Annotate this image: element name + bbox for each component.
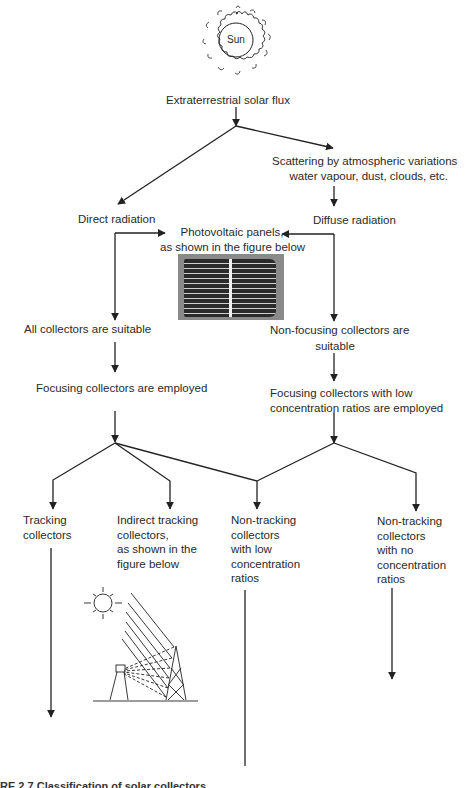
node-pv-line2: as shown in the figure below <box>160 240 304 254</box>
node-nontracking-low-ratio: Non-tracking collectors with low concent… <box>231 513 300 586</box>
node-extraterrestrial-flux: Extraterrestrial solar flux <box>166 93 290 107</box>
node-all-collectors-suitable: All collectors are suitable <box>24 322 151 336</box>
node-indirect-tracking-collectors: Indirect tracking collectors, as shown i… <box>117 513 198 571</box>
node-nontracking-no-ratio: Non-tracking collectors with no concentr… <box>377 514 446 587</box>
node-nonfocusing-line1: Non-focusing collectors are <box>270 323 409 337</box>
node-tracking-collectors: Tracking collectors <box>23 513 72 542</box>
node-focusing-low-line1: Focusing collectors with low <box>270 386 413 400</box>
node-direct-radiation: Direct radiation <box>78 212 155 226</box>
node-pv-line1: Photovoltaic panels, <box>160 225 304 239</box>
node-focusing-employed: Focusing collectors are employed <box>36 381 207 395</box>
figure-caption: RE 2.7 Classification of solar collector… <box>0 780 206 788</box>
node-scattering-line1: Scattering by atmospheric variations <box>272 154 448 168</box>
sun-label: Sun <box>222 33 250 47</box>
node-nonfocusing-line2: suitable <box>270 339 400 353</box>
node-diffuse-radiation: Diffuse radiation <box>313 213 396 227</box>
heliostat-tower-sketch <box>84 587 198 701</box>
solar-collector-classification-diagram: Sun Extraterrestrial solar flux Scatteri… <box>0 0 468 788</box>
node-focusing-low-line2: concentration ratios are employed <box>270 401 443 415</box>
node-scattering-line2: water vapour, dust, clouds, etc. <box>272 169 448 183</box>
photovoltaic-panel-photo <box>178 254 284 320</box>
